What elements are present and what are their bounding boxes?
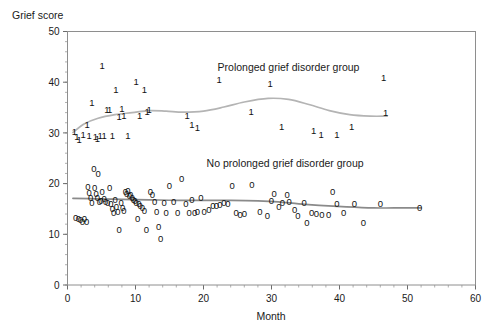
svg-text:1: 1 xyxy=(146,104,151,115)
svg-text:0: 0 xyxy=(65,293,71,304)
svg-text:0: 0 xyxy=(84,216,89,227)
svg-text:0: 0 xyxy=(341,207,346,218)
svg-text:0: 0 xyxy=(229,180,234,191)
svg-text:1: 1 xyxy=(134,76,139,87)
svg-text:0: 0 xyxy=(257,206,262,217)
svg-text:1: 1 xyxy=(125,130,130,141)
svg-text:50: 50 xyxy=(402,293,414,304)
svg-text:0: 0 xyxy=(330,186,335,197)
svg-text:0: 0 xyxy=(121,205,126,216)
svg-text:30: 30 xyxy=(266,293,278,304)
svg-text:0: 0 xyxy=(326,209,331,220)
svg-text:0: 0 xyxy=(189,194,194,205)
y-axis-title: Grief score xyxy=(12,9,64,21)
svg-text:0: 0 xyxy=(352,198,357,209)
svg-text:30: 30 xyxy=(48,128,60,139)
svg-text:0: 0 xyxy=(272,188,277,199)
svg-text:0: 0 xyxy=(319,209,324,220)
svg-text:0: 0 xyxy=(107,182,112,193)
svg-text:0: 0 xyxy=(142,205,147,216)
svg-text:0: 0 xyxy=(156,221,161,232)
svg-text:1: 1 xyxy=(318,129,323,140)
svg-text:0: 0 xyxy=(144,224,149,235)
svg-text:1: 1 xyxy=(100,60,105,71)
svg-text:1: 1 xyxy=(137,110,142,121)
svg-text:40: 40 xyxy=(334,293,346,304)
svg-text:40: 40 xyxy=(48,77,60,88)
svg-text:1: 1 xyxy=(349,121,354,132)
svg-text:0: 0 xyxy=(225,198,230,209)
svg-text:1: 1 xyxy=(279,121,284,132)
svg-text:1: 1 xyxy=(381,72,386,83)
svg-text:0: 0 xyxy=(249,179,254,190)
svg-text:20: 20 xyxy=(48,178,60,189)
svg-text:0: 0 xyxy=(175,207,180,218)
svg-text:0: 0 xyxy=(242,208,247,219)
x-axis-title: Month xyxy=(256,310,285,322)
svg-text:1: 1 xyxy=(102,130,107,141)
svg-text:1: 1 xyxy=(85,119,90,130)
svg-text:0: 0 xyxy=(179,173,184,184)
svg-text:50: 50 xyxy=(48,26,60,37)
svg-text:0: 0 xyxy=(304,217,309,228)
svg-text:0: 0 xyxy=(295,210,300,221)
svg-text:0: 0 xyxy=(54,280,60,291)
svg-text:1: 1 xyxy=(383,107,388,118)
svg-text:1: 1 xyxy=(267,78,272,89)
svg-text:0: 0 xyxy=(163,207,168,218)
svg-text:0: 0 xyxy=(334,198,339,209)
svg-text:1: 1 xyxy=(195,122,200,133)
svg-text:1: 1 xyxy=(110,130,115,141)
annotation-prolonged-group-label: Prolonged grief disorder group xyxy=(218,61,360,73)
svg-text:1: 1 xyxy=(142,84,147,95)
svg-text:0: 0 xyxy=(95,168,100,179)
svg-text:0: 0 xyxy=(361,217,366,228)
svg-text:1: 1 xyxy=(113,84,118,95)
svg-text:1: 1 xyxy=(107,104,112,115)
annotation-no-prolonged-group-label: No prolonged grief disorder group xyxy=(207,157,364,169)
svg-text:0: 0 xyxy=(158,233,163,244)
svg-text:60: 60 xyxy=(470,293,482,304)
svg-text:1: 1 xyxy=(87,130,92,141)
svg-text:10: 10 xyxy=(48,229,60,240)
svg-text:1: 1 xyxy=(121,110,126,121)
svg-text:0: 0 xyxy=(195,206,200,217)
svg-text:0: 0 xyxy=(301,197,306,208)
svg-text:10: 10 xyxy=(130,293,142,304)
svg-text:0: 0 xyxy=(265,210,270,221)
svg-text:1: 1 xyxy=(334,129,339,140)
svg-text:0: 0 xyxy=(198,192,203,203)
svg-text:0: 0 xyxy=(171,196,176,207)
svg-text:1: 1 xyxy=(80,129,85,140)
svg-text:0: 0 xyxy=(117,224,122,235)
svg-text:0: 0 xyxy=(167,180,172,191)
svg-text:0: 0 xyxy=(135,213,140,224)
svg-text:0: 0 xyxy=(417,202,422,213)
svg-text:1: 1 xyxy=(311,125,316,136)
svg-text:1: 1 xyxy=(248,106,253,117)
figure-scatter-grief-score: Grief score 01020304050 0102030405060 11… xyxy=(0,0,488,329)
svg-text:0: 0 xyxy=(154,206,159,217)
svg-text:1: 1 xyxy=(89,97,94,108)
svg-text:0: 0 xyxy=(378,198,383,209)
svg-text:1: 1 xyxy=(216,74,221,85)
grief-score-scatter-plot: Grief score 01020304050 0102030405060 11… xyxy=(0,0,488,329)
svg-text:20: 20 xyxy=(198,293,210,304)
